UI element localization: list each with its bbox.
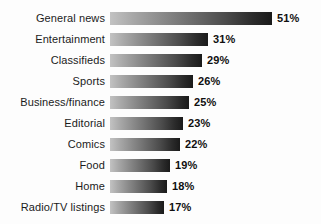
bar-row: Food19% bbox=[0, 158, 321, 173]
bar-rows-container: General news51%Entertainment31%Classifie… bbox=[0, 0, 321, 224]
bar-row: Radio/TV listings17% bbox=[0, 200, 321, 215]
bar-track bbox=[110, 33, 208, 46]
bar-fill bbox=[110, 96, 189, 109]
bar-row: Sports26% bbox=[0, 74, 321, 89]
bar-value-label: 19% bbox=[175, 158, 197, 173]
bar-fill bbox=[110, 159, 170, 172]
bar-value-label: 23% bbox=[188, 116, 210, 131]
bar-row: Comics22% bbox=[0, 137, 321, 152]
bar-value-label: 25% bbox=[194, 95, 216, 110]
bar-value-label: 18% bbox=[172, 179, 194, 194]
bar-track bbox=[110, 12, 272, 25]
bar-category-label: Sports bbox=[0, 74, 105, 89]
bar-track bbox=[110, 75, 193, 88]
bar-track bbox=[110, 96, 189, 109]
bar-fill bbox=[110, 180, 167, 193]
bar-fill bbox=[110, 54, 202, 67]
bar-row: Home18% bbox=[0, 179, 321, 194]
bar-value-label: 29% bbox=[207, 53, 229, 68]
bar-row: Entertainment31% bbox=[0, 32, 321, 47]
bar-fill bbox=[110, 201, 164, 214]
bar-row: Business/finance25% bbox=[0, 95, 321, 110]
bar-value-label: 17% bbox=[169, 200, 191, 215]
bar-track bbox=[110, 201, 164, 214]
bar-category-label: Entertainment bbox=[0, 32, 105, 47]
bar-category-label: Radio/TV listings bbox=[0, 200, 105, 215]
bar-fill bbox=[110, 117, 183, 130]
bar-track bbox=[110, 117, 183, 130]
bar-row: Editorial23% bbox=[0, 116, 321, 131]
bar-value-label: 51% bbox=[277, 11, 299, 26]
bar-value-label: 22% bbox=[185, 137, 207, 152]
bar-category-label: Editorial bbox=[0, 116, 105, 131]
bar-category-label: Home bbox=[0, 179, 105, 194]
bar-category-label: General news bbox=[0, 11, 105, 26]
bar-row: Classifieds29% bbox=[0, 53, 321, 68]
bar-category-label: Food bbox=[0, 158, 105, 173]
bar-category-label: Business/finance bbox=[0, 95, 105, 110]
bar-track bbox=[110, 54, 202, 67]
bar-fill bbox=[110, 138, 180, 151]
bar-track bbox=[110, 138, 180, 151]
bar-category-label: Classifieds bbox=[0, 53, 105, 68]
bar-value-label: 31% bbox=[213, 32, 235, 47]
bar-value-label: 26% bbox=[198, 74, 220, 89]
bar-row: General news51% bbox=[0, 11, 321, 26]
bar-track bbox=[110, 159, 170, 172]
bar-fill bbox=[110, 75, 193, 88]
bar-track bbox=[110, 180, 167, 193]
bar-chart: General news51%Entertainment31%Classifie… bbox=[0, 0, 321, 224]
bar-category-label: Comics bbox=[0, 137, 105, 152]
bar-fill bbox=[110, 12, 272, 25]
bar-fill bbox=[110, 33, 208, 46]
